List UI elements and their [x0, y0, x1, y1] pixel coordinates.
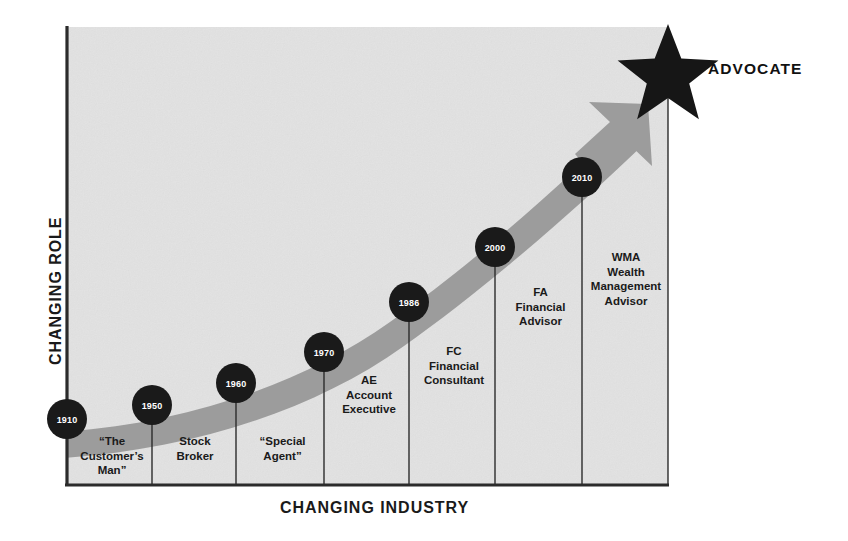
year-bubble-2000[interactable]: 2000	[475, 227, 515, 267]
chart-figure: 1910 1950 1960 1970 1986 2000	[0, 0, 848, 541]
role-label-2000: FA Financial Advisor	[498, 285, 583, 329]
year-bubble-label: 1986	[399, 298, 420, 308]
x-axis-title: CHANGING INDUSTRY	[280, 499, 469, 517]
year-bubble-label: 2010	[572, 173, 593, 183]
y-axis-title: CHANGING ROLE	[47, 217, 65, 365]
year-bubble-2010[interactable]: 2010	[562, 157, 602, 197]
year-bubble-label: 1970	[314, 348, 335, 358]
year-bubble-1910[interactable]: 1910	[47, 399, 87, 439]
role-label-2010: WMA Wealth Management Advisor	[584, 250, 668, 309]
advocate-label: ADVOCATE	[708, 60, 803, 78]
year-bubble-label: 1950	[142, 401, 163, 411]
year-bubble-label: 1960	[226, 379, 247, 389]
role-label-1986: FC Financial Consultant	[411, 344, 497, 388]
role-label-1910: “The Customer’s Man”	[72, 434, 152, 478]
role-label-1950: Stock Broker	[155, 434, 235, 463]
year-bubble-1986[interactable]: 1986	[389, 282, 429, 322]
year-bubble-label: 2000	[485, 243, 506, 253]
role-label-1970: AE Account Executive	[327, 373, 411, 417]
year-bubble-label: 1910	[57, 415, 78, 425]
role-label-1960: “Special Agent”	[240, 434, 325, 463]
year-bubble-1970[interactable]: 1970	[304, 332, 344, 372]
year-bubble-1960[interactable]: 1960	[216, 363, 256, 403]
year-bubble-1950[interactable]: 1950	[132, 385, 172, 425]
